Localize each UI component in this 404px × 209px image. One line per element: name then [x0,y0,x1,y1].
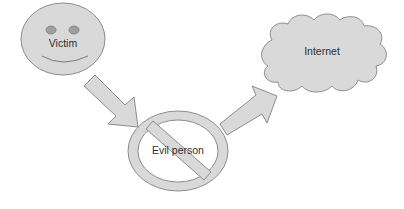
arrow-victim-to-evil [84,75,138,127]
evil-person-label: Evil person [152,144,204,156]
victim-label: Victim [49,37,78,49]
arrow-evil-to-internet [220,86,277,135]
node-victim: Victim [21,3,105,75]
diagram-canvas: Victim Evil person Internet [0,0,404,209]
left-eye-icon [46,26,56,34]
right-eye-icon [69,26,79,34]
node-internet: Internet [262,14,387,92]
block-arrow-icon [84,75,138,127]
block-arrow-icon [220,86,277,135]
node-evil-person: Evil person [128,111,228,191]
internet-label: Internet [304,45,340,57]
